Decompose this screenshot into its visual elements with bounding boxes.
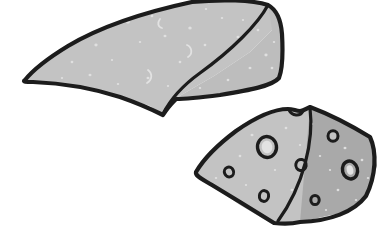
- cheese-hole: [259, 190, 270, 202]
- speckle: [291, 189, 294, 192]
- speckle: [299, 144, 301, 146]
- speckle: [271, 67, 274, 69]
- speckle: [337, 189, 340, 191]
- speckle: [249, 67, 252, 70]
- speckle: [227, 79, 230, 81]
- speckle: [71, 61, 74, 63]
- cheese-hole: [223, 166, 235, 179]
- speckle: [204, 44, 207, 46]
- speckle: [329, 169, 331, 171]
- speckle: [199, 87, 202, 89]
- speckle: [251, 134, 254, 137]
- speckle: [319, 155, 322, 157]
- speckle: [242, 19, 244, 21]
- speckle: [257, 29, 260, 31]
- speckle: [147, 77, 150, 80]
- speckle: [111, 59, 113, 61]
- speckle: [215, 177, 218, 179]
- speckle: [273, 41, 276, 43]
- speckle: [205, 8, 208, 10]
- speckle: [239, 155, 242, 157]
- speckle: [179, 61, 182, 63]
- speckle: [245, 184, 247, 186]
- cheese-hole: [311, 195, 319, 204]
- speckle: [89, 74, 92, 77]
- speckle: [264, 54, 267, 57]
- speckle: [61, 77, 63, 79]
- speckle: [151, 15, 154, 17]
- speckle: [355, 199, 358, 201]
- illustration-canvas: [0, 0, 391, 248]
- speckle: [237, 36, 240, 39]
- speckle: [164, 35, 167, 38]
- speckle: [361, 159, 364, 161]
- speckle: [285, 127, 288, 129]
- cheese-hole: [328, 131, 338, 141]
- speckle: [367, 177, 370, 179]
- speckle: [139, 41, 142, 43]
- cheese-illustration-svg: [0, 0, 391, 248]
- speckle: [221, 17, 224, 19]
- speckle: [188, 27, 191, 30]
- speckle: [167, 85, 169, 87]
- speckle: [274, 169, 276, 171]
- speckle: [94, 44, 97, 47]
- speckle: [117, 83, 120, 85]
- speckle: [344, 147, 347, 150]
- speckle: [325, 209, 327, 211]
